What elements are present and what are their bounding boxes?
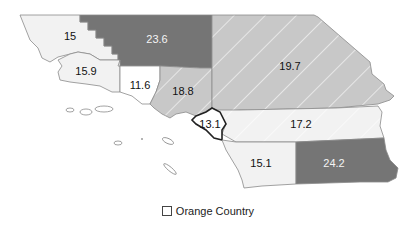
label-kern: 23.6 [146, 33, 167, 45]
choropleth-map: 15 23.6 15.9 11.6 18.8 19.7 13.1 17.2 15… [0, 0, 416, 228]
legend-label: Orange Country [176, 205, 254, 217]
label-los-angeles: 18.8 [172, 85, 193, 97]
label-san-bernardino: 19.7 [279, 60, 300, 72]
label-santa-barbara: 15 [64, 30, 76, 42]
label-imperial: 24.2 [323, 157, 344, 169]
islands [66, 106, 177, 176]
legend: Orange Country [0, 205, 416, 217]
label-orange: 13.1 [199, 118, 220, 130]
label-riverside: 17.2 [290, 118, 311, 130]
region-imperial[interactable] [296, 138, 398, 184]
label-west-la: 11.6 [130, 79, 151, 91]
region-san-bernardino[interactable] [212, 15, 394, 112]
label-san-diego: 15.1 [250, 157, 271, 169]
legend-swatch-icon [162, 206, 172, 216]
label-ventura: 15.9 [75, 65, 96, 77]
